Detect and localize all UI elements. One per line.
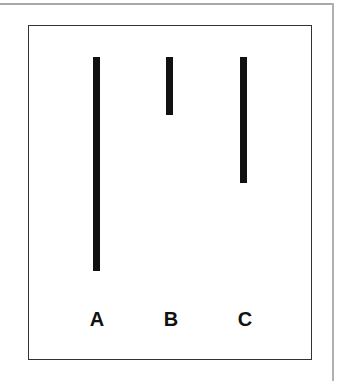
- label-a: A: [82, 308, 112, 331]
- label-c: C: [230, 308, 260, 331]
- outer-frame-top: [0, 3, 334, 5]
- outer-frame-right: [332, 3, 334, 381]
- line-b: [166, 57, 173, 115]
- label-b: B: [156, 308, 186, 331]
- line-a: [93, 57, 100, 271]
- line-c: [240, 57, 247, 183]
